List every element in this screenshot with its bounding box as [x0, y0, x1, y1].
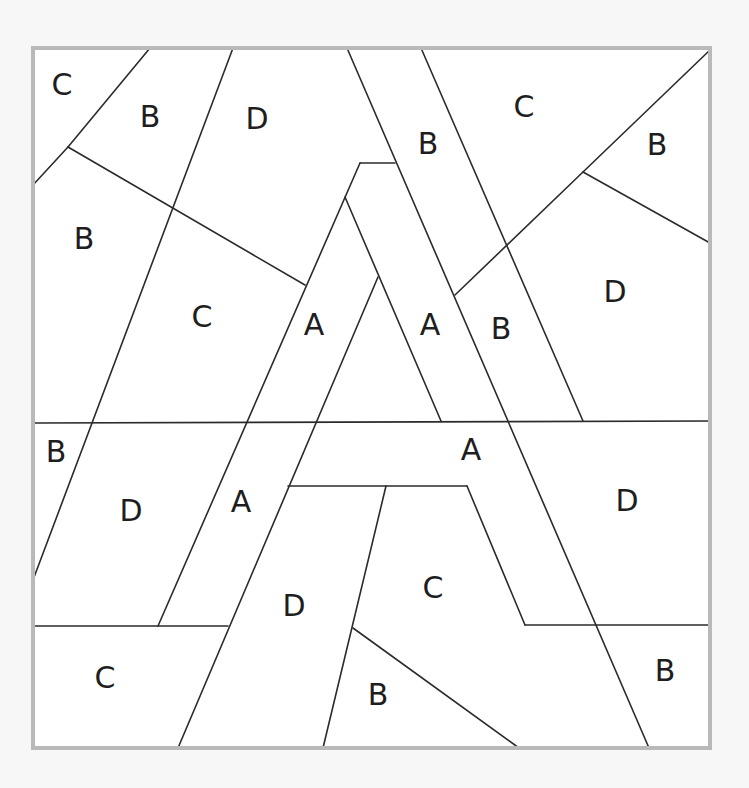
region-label-d: D: [603, 274, 626, 309]
region-label-a: A: [304, 307, 325, 342]
region-label-b: B: [74, 221, 95, 256]
puzzle-frame-fill: [33, 48, 710, 748]
region-label-c: C: [52, 67, 73, 102]
region-label-d: D: [282, 588, 305, 623]
region-label-c: C: [423, 570, 444, 605]
region-label-c: C: [192, 299, 213, 334]
region-label-a: A: [461, 432, 482, 467]
region-label-c: C: [514, 89, 535, 124]
region-label-b: B: [418, 126, 439, 161]
region-label-b: B: [647, 127, 668, 162]
region-label-b: B: [46, 434, 67, 469]
region-label-d: D: [119, 493, 142, 528]
region-label-a: A: [420, 307, 441, 342]
region-label-b: B: [491, 311, 512, 346]
region-label-d: D: [615, 483, 638, 518]
region-label-d: D: [245, 101, 268, 136]
region-label-b: B: [368, 677, 389, 712]
region-label-c: C: [95, 660, 116, 695]
region-label-b: B: [655, 653, 676, 688]
region-label-b: B: [140, 99, 161, 134]
color-by-letter-puzzle: CBDBCBBCAABDBADADDCCBB: [0, 0, 749, 788]
region-label-a: A: [231, 484, 252, 519]
